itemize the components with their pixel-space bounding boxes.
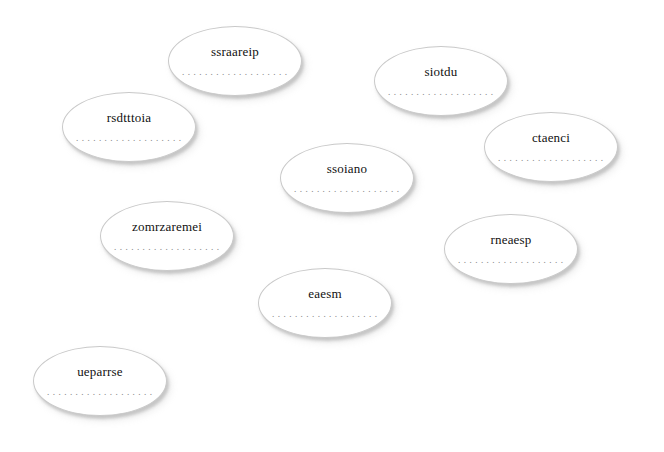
- ellipse-node[interactable]: rsdtttoia...................: [62, 92, 196, 162]
- ellipse-node-label: ueparrse: [77, 365, 123, 378]
- ellipse-node-label: rneaesp: [490, 233, 531, 246]
- ellipse-node-dotted-line: ...................: [497, 155, 605, 163]
- ellipse-node-dotted-line: ...................: [181, 69, 289, 77]
- ellipse-node-dotted-line: ...................: [75, 135, 183, 143]
- ellipse-node-label: rsdtttoia: [107, 111, 151, 124]
- ellipse-node-dotted-line: ...................: [293, 186, 401, 194]
- ellipse-node-label: siotdu: [425, 65, 458, 78]
- ellipse-node-dotted-line: ...................: [271, 311, 379, 319]
- ellipse-node-dotted-line: ...................: [387, 89, 495, 97]
- ellipse-node[interactable]: eaesm...................: [258, 268, 392, 338]
- ellipse-node-label: zomrzaremei: [132, 220, 202, 233]
- ellipse-node[interactable]: ctaenci...................: [484, 112, 618, 182]
- ellipse-node[interactable]: rneaesp...................: [444, 214, 578, 284]
- ellipse-canvas: ssraareip...................siotdu......…: [0, 0, 664, 452]
- ellipse-node[interactable]: zomrzaremei...................: [100, 201, 234, 271]
- ellipse-node[interactable]: siotdu...................: [374, 46, 508, 116]
- ellipse-node-label: eaesm: [308, 287, 341, 300]
- ellipse-node[interactable]: ssraareip...................: [168, 26, 302, 96]
- ellipse-node-dotted-line: ...................: [46, 389, 154, 397]
- ellipse-node-dotted-line: ...................: [113, 244, 221, 252]
- ellipse-node-label: ssoiano: [327, 162, 367, 175]
- ellipse-node-dotted-line: ...................: [457, 257, 565, 265]
- ellipse-node-label: ssraareip: [211, 45, 259, 58]
- ellipse-node[interactable]: ueparrse...................: [33, 346, 167, 416]
- ellipse-node[interactable]: ssoiano...................: [280, 143, 414, 213]
- ellipse-node-label: ctaenci: [532, 131, 570, 144]
